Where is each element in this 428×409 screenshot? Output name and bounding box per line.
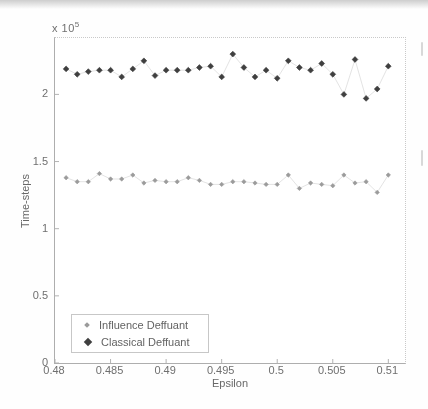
legend-item: Influence Deffuant	[72, 319, 208, 331]
scan-artifact	[421, 42, 423, 56]
legend-marker-icon	[84, 338, 92, 346]
legend-marker-icon	[84, 322, 90, 328]
y-axis-multiplier: x 105	[52, 20, 80, 34]
y-tick-label: 1	[16, 222, 48, 234]
figure-canvas: x 105 Time-steps Epsilon Influence Deffu…	[0, 0, 428, 409]
x-tick-label: 0.5	[269, 364, 284, 376]
series-connector-line	[66, 54, 388, 98]
y-axis-multiplier-base: x 10	[52, 22, 75, 34]
y-axis-multiplier-exponent: 5	[75, 20, 80, 29]
x-tick-label: 0.485	[96, 364, 124, 376]
y-tick-label: 2	[16, 87, 48, 99]
x-axis-label: Epsilon	[212, 377, 248, 389]
y-tick-label: 0.5	[16, 289, 48, 301]
legend-item: Classical Deffuant	[72, 336, 208, 348]
legend: Influence DeffuantClassical Deffuant	[71, 314, 209, 353]
y-tick-label: 0	[16, 356, 48, 368]
series-connector-line	[66, 174, 388, 193]
legend-item-label: Classical Deffuant	[101, 336, 189, 348]
x-tick-label: 0.49	[154, 364, 175, 376]
x-tick-label: 0.495	[207, 364, 235, 376]
series-markers-1	[63, 51, 391, 101]
scan-artifact	[421, 150, 423, 166]
y-tick-label: 1.5	[16, 155, 48, 167]
x-tick-label: 0.51	[377, 364, 398, 376]
x-tick-label: 0.505	[318, 364, 346, 376]
y-axis-label: Time-steps	[19, 174, 31, 228]
legend-item-label: Influence Deffuant	[99, 319, 188, 331]
scan-shadow-top	[0, 0, 428, 9]
